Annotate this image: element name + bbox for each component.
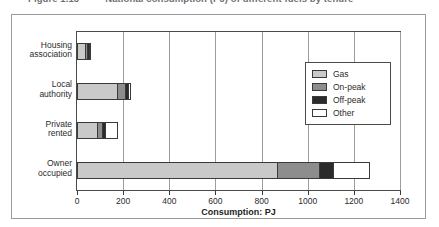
bar-segment-off-peak[interactable] [319, 162, 333, 179]
bar-segment-other[interactable] [333, 162, 370, 179]
x-tick-label: 200 [116, 196, 130, 206]
legend-label: Other [333, 108, 354, 118]
y-axis-label: Housing association [12, 41, 72, 60]
x-tick-label: 1400 [391, 196, 410, 206]
legend-swatch-icon [312, 70, 327, 78]
bar-row[interactable] [77, 83, 131, 100]
legend-label: On-peak [333, 82, 366, 92]
x-tickmark [215, 191, 216, 195]
bar-segment-other[interactable] [105, 122, 118, 139]
x-tickmark [400, 191, 401, 195]
bar-segment-gas[interactable] [77, 122, 97, 139]
bar-segment-other[interactable] [89, 43, 91, 60]
bar-segment-gas[interactable] [77, 43, 85, 60]
y-axis-label: Owner occupied [12, 159, 72, 178]
x-tick-label: 600 [208, 196, 222, 206]
x-tickmark [123, 191, 124, 195]
x-tick-label: 800 [254, 196, 268, 206]
chart-legend: GasOn-peakOff-peakOther [305, 62, 391, 125]
bar-row[interactable] [77, 43, 91, 60]
legend-swatch-icon [312, 83, 327, 91]
x-tickmark [77, 191, 78, 195]
figure-caption: Figure 1.13National consumption (PJ) of … [28, 0, 428, 4]
legend-swatch-icon [312, 109, 327, 117]
x-tickmark [169, 191, 170, 195]
legend-item[interactable]: On-peak [312, 80, 385, 93]
bar-segment-on-peak[interactable] [117, 83, 125, 100]
x-tick-label: 400 [162, 196, 176, 206]
x-tick-label: 1200 [344, 196, 363, 206]
legend-item[interactable]: Other [312, 106, 385, 119]
x-tick-label: 1000 [298, 196, 317, 206]
x-tick-label: 0 [75, 196, 80, 206]
legend-item[interactable]: Off-peak [312, 93, 385, 106]
bar-segment-gas[interactable] [77, 162, 277, 179]
legend-label: Off-peak [333, 95, 365, 105]
bar-segment-gas[interactable] [77, 83, 117, 100]
x-tickmark [262, 191, 263, 195]
bar-segment-on-peak[interactable] [277, 162, 320, 179]
figure-number: Figure 1.13 [28, 0, 79, 4]
figure-caption-text: National consumption (PJ) of different f… [105, 0, 353, 4]
y-axis-labels: Housing associationLocal authorityPrivat… [12, 31, 72, 191]
figure-container: Housing associationLocal authorityPrivat… [11, 14, 426, 219]
x-tickmark [354, 191, 355, 195]
x-axis-title: Consumption: PJ [76, 207, 401, 217]
y-axis-label: Private rented [12, 120, 72, 139]
legend-label: Gas [333, 69, 349, 79]
bar-row[interactable] [77, 162, 370, 179]
x-tickmark [308, 191, 309, 195]
bar-segment-other[interactable] [128, 83, 131, 100]
bar-row[interactable] [77, 122, 118, 139]
y-axis-label: Local authority [12, 80, 72, 99]
gridline [400, 32, 401, 190]
legend-swatch-icon [312, 96, 327, 104]
legend-item[interactable]: Gas [312, 67, 385, 80]
